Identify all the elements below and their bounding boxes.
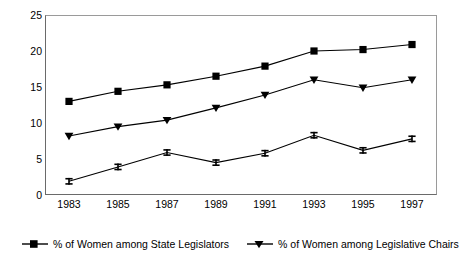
i-beam-marker-icon	[114, 164, 121, 171]
chart-legend: % of Women among State Legislators % of …	[22, 234, 442, 254]
i-beam-marker-icon	[408, 135, 415, 142]
legend-entry-legislative-chairs: % of Women among Legislative Chairs	[247, 238, 459, 250]
i-beam-marker-icon	[65, 178, 72, 185]
square-marker-icon	[212, 73, 219, 80]
square-marker-icon	[22, 238, 48, 250]
square-marker-icon	[261, 63, 268, 70]
series-line	[69, 135, 412, 181]
square-marker-icon	[163, 81, 170, 88]
data-series	[65, 132, 415, 185]
legend-entry-state-legislators: % of Women among State Legislators	[22, 238, 229, 250]
square-marker-icon	[359, 46, 366, 53]
square-marker-icon	[114, 88, 121, 95]
i-beam-marker-icon	[310, 132, 317, 139]
square-marker-icon	[408, 41, 415, 48]
square-marker-icon	[65, 98, 72, 105]
triangle-down-marker-icon	[247, 238, 273, 250]
triangle-down-marker-icon	[65, 133, 74, 140]
data-series	[65, 41, 415, 105]
series-group	[65, 41, 417, 185]
legend-label: % of Women among State Legislators	[53, 238, 229, 250]
triangle-down-marker-icon	[359, 85, 368, 92]
i-beam-marker-icon	[359, 147, 366, 154]
legend-label: % of Women among Legislative Chairs	[278, 238, 459, 250]
data-series	[65, 77, 417, 141]
square-marker-icon	[310, 47, 317, 54]
